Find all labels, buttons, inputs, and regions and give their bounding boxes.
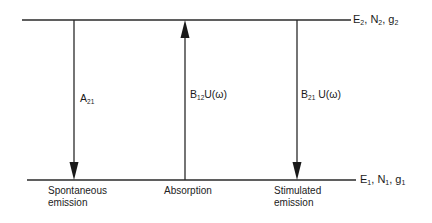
spontaneous-coefficient-label: A21: [80, 92, 94, 108]
spontaneous-emission-caption: Spontaneous emission: [48, 185, 107, 209]
lower-level-label: E1, N1, g1: [360, 173, 405, 189]
spontaneous-emission-arrow: [70, 20, 79, 180]
absorption-caption: Absorption: [164, 185, 212, 197]
stimulated-coefficient-label: B21 U(ω): [301, 88, 341, 104]
absorption-arrow: [181, 20, 190, 180]
absorption-coefficient-label: B12U(ω): [190, 88, 227, 104]
stimulated-emission-caption: Stimulated emission: [274, 185, 321, 209]
upper-level-label: E2, N2, g2: [353, 13, 398, 29]
